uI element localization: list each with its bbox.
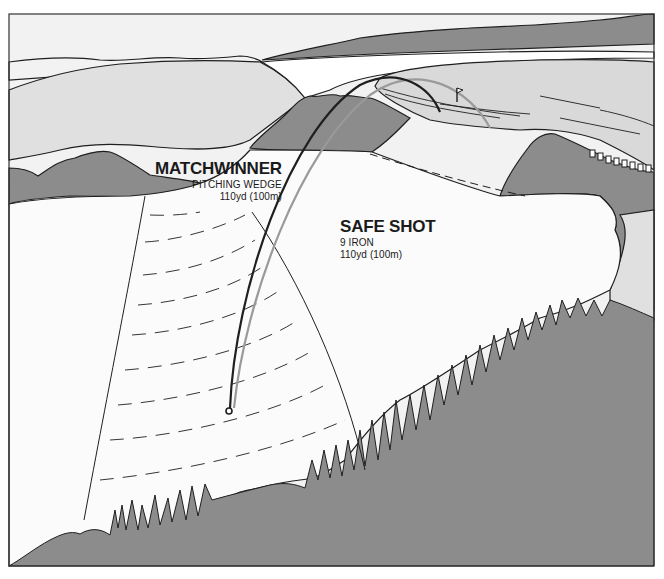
golf-illustration bbox=[0, 0, 664, 579]
safe-shot-label: SAFE SHOT 9 IRON 110yd (100m) bbox=[340, 218, 436, 261]
safe-shot-club: 9 IRON bbox=[340, 238, 436, 249]
matchwinner-distance: 110yd (100m) bbox=[155, 192, 282, 203]
safe-shot-title: SAFE SHOT bbox=[340, 218, 436, 236]
ball-start-icon bbox=[226, 408, 232, 414]
matchwinner-label: MATCHWINNER PITCHING WEDGE 110yd (100m) bbox=[155, 160, 282, 203]
safe-shot-distance: 110yd (100m) bbox=[340, 250, 436, 261]
matchwinner-club: PITCHING WEDGE bbox=[155, 180, 282, 191]
matchwinner-title: MATCHWINNER bbox=[155, 160, 282, 178]
